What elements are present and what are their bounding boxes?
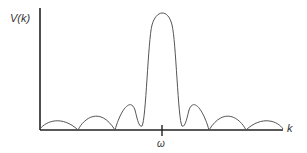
spectrum-curve [40, 13, 283, 130]
x-axis-label: k [287, 122, 293, 134]
omega-label: ω [157, 138, 165, 149]
y-axis-label: V(k) [10, 12, 30, 24]
plot [0, 0, 307, 153]
